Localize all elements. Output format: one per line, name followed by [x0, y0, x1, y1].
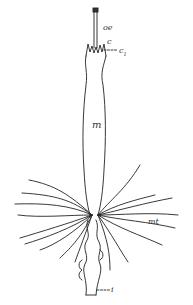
diagram-figure: oe c c1 m mt i	[0, 0, 193, 305]
malpighian-tubules-left	[15, 180, 92, 262]
label-i: i	[111, 286, 114, 294]
malpighian-tubules-right	[98, 165, 178, 270]
label-oe: oe	[103, 24, 113, 32]
label-c1-subscript: 1	[123, 51, 126, 57]
label-c1: c1	[119, 47, 127, 57]
midgut	[83, 56, 106, 215]
label-c: c	[107, 38, 111, 46]
oesophagus	[93, 8, 98, 48]
intestine	[79, 220, 110, 295]
alimentary-canal-drawing	[0, 0, 193, 305]
label-m: m	[92, 120, 101, 130]
label-mt: mt	[148, 218, 159, 226]
crop	[86, 44, 118, 56]
